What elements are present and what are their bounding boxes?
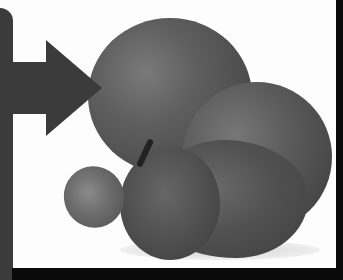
arrow-head-icon bbox=[46, 40, 102, 136]
fruit-photo bbox=[0, 0, 343, 280]
frame-border-right bbox=[336, 0, 343, 280]
frame-border-bottom bbox=[12, 268, 343, 280]
grape bbox=[54, 156, 135, 238]
plum-front bbox=[120, 148, 220, 260]
arrow-right-icon bbox=[10, 62, 48, 114]
arrow-bar bbox=[0, 8, 13, 280]
